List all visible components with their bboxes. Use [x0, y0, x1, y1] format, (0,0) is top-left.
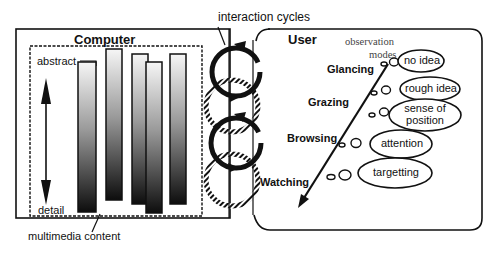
- bubble-sense-of-text: sense of: [390, 103, 460, 115]
- multimedia-content-label: multimedia content: [28, 231, 120, 242]
- bubble-position-text: position: [390, 115, 460, 127]
- content-bar: [106, 49, 122, 200]
- bubble-attention-text: attention: [372, 138, 432, 150]
- mode-glancing: Glancing: [327, 64, 374, 75]
- content-bar: [146, 62, 162, 213]
- mode-browsing: Browsing: [287, 133, 337, 144]
- detail-label: detail: [38, 205, 64, 216]
- mode-watching: Watching: [260, 177, 309, 188]
- content-bar: [170, 54, 186, 204]
- bubble-rough-idea-text: rough idea: [401, 83, 461, 95]
- abstract-label: abstract: [37, 56, 76, 67]
- content-bar: [78, 62, 96, 212]
- mode-grazing: Grazing: [308, 97, 349, 108]
- bubble-targetting-text: targetting: [360, 167, 432, 179]
- user-label: User: [288, 33, 317, 46]
- interaction-cycles-label: interaction cycles: [218, 11, 310, 23]
- observation-modes-label-line2: modes: [369, 50, 396, 61]
- content-bars: [78, 49, 186, 213]
- interaction-cycles: [206, 29, 261, 218]
- bubble-no-idea-text: no idea: [400, 55, 444, 67]
- abstract-detail-arrow: [41, 78, 51, 205]
- observation-modes-label-line1: observation: [345, 37, 394, 48]
- computer-label: Computer: [74, 33, 135, 46]
- user-box: [254, 29, 482, 230]
